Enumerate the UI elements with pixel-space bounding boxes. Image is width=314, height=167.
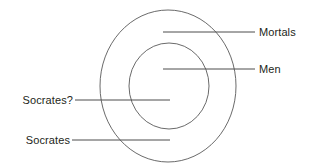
label-socrates: Socrates [26,134,70,146]
label-men: Men [259,63,281,75]
label-mortals: Mortals [259,26,296,38]
outer-circle-mortals [100,10,236,162]
venn-diagram-figure: Mortals Men Socrates? Socrates [0,0,314,167]
label-socrates-question: Socrates? [23,94,73,106]
inner-circle-men [129,43,209,129]
